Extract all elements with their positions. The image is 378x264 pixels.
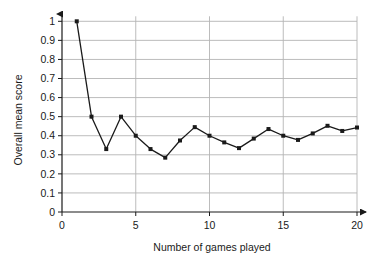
- x-tick-label: 15: [277, 219, 289, 231]
- x-tick-label: 0: [59, 219, 65, 231]
- data-point-marker: [134, 134, 138, 138]
- data-point-marker: [193, 125, 197, 129]
- x-tick-label: 10: [204, 219, 216, 231]
- data-point-marker: [355, 126, 359, 130]
- y-tick-label: 0.2: [40, 168, 55, 180]
- y-tick-label: 0: [49, 206, 55, 218]
- y-tick-label: 0.5: [40, 110, 55, 122]
- data-point-marker: [90, 115, 94, 119]
- data-point-marker: [281, 134, 285, 138]
- data-point-marker: [326, 124, 330, 128]
- series-line: [77, 21, 357, 157]
- x-axis-tick-labels: 05101520: [59, 219, 363, 231]
- data-point-marker: [237, 146, 241, 150]
- x-tick-label: 20: [351, 219, 363, 231]
- data-point-marker: [163, 156, 167, 160]
- data-point-marker: [222, 140, 226, 144]
- data-point-marker: [296, 138, 300, 142]
- y-tick-label: 0.3: [40, 148, 55, 160]
- y-tick-label: 0.8: [40, 53, 55, 65]
- y-tick-label: 0.1: [40, 187, 55, 199]
- data-point-marker: [149, 147, 153, 151]
- y-tick-label: 1: [49, 15, 55, 27]
- data-point-marker: [119, 115, 123, 119]
- gridlines: [62, 16, 357, 212]
- data-point-marker: [75, 19, 79, 23]
- data-point-marker: [311, 131, 315, 135]
- axes: [58, 14, 366, 216]
- x-axis-title: Number of games played: [153, 241, 270, 253]
- data-point-marker: [178, 138, 182, 142]
- y-tick-label: 0.4: [40, 129, 55, 141]
- data-point-marker: [267, 127, 271, 131]
- y-tick-label: 0.6: [40, 91, 55, 103]
- data-point-marker: [208, 134, 212, 138]
- x-tick-label: 5: [133, 219, 139, 231]
- y-axis-tick-labels: 00.10.20.30.40.50.60.70.80.91: [40, 15, 55, 218]
- y-axis-title: Overall mean score: [12, 74, 24, 165]
- chart-figure: 00.10.20.30.40.50.60.70.80.91 05101520 O…: [0, 0, 378, 264]
- y-tick-label: 0.9: [40, 34, 55, 46]
- data-point-marker: [104, 147, 108, 151]
- data-point-marker: [252, 137, 256, 141]
- data-point-marker: [340, 129, 344, 133]
- line-chart: 00.10.20.30.40.50.60.70.80.91 05101520 O…: [0, 0, 378, 264]
- y-tick-label: 0.7: [40, 72, 55, 84]
